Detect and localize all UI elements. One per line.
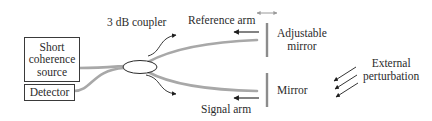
detector-label: Detector xyxy=(30,86,70,99)
signal-arm-label: Signal arm xyxy=(201,103,251,115)
fiber-lines xyxy=(74,40,257,91)
mirror-label: Mirror xyxy=(277,84,308,96)
source-label: Short coherence source xyxy=(29,41,76,79)
detector-box: Detector xyxy=(24,84,75,101)
reference-arm-label: Reference arm xyxy=(188,14,255,26)
detector-fiber xyxy=(74,68,124,91)
coupler-ellipse xyxy=(123,61,157,74)
coupler-label: 3 dB coupler xyxy=(107,16,166,28)
external-perturbation-label: External perturbation xyxy=(363,57,419,83)
adjustable-mirror-label: Adjustable mirror xyxy=(277,27,327,53)
reference-arm-fiber xyxy=(148,40,257,62)
signal-arm-fiber xyxy=(148,72,257,91)
perturbation-arrows xyxy=(334,67,358,97)
short-coherence-source-box: Short coherence source xyxy=(24,37,80,82)
